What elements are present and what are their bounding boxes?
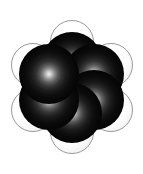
molecule-image xyxy=(0,0,143,174)
benzene-space-filling-model xyxy=(0,0,143,174)
